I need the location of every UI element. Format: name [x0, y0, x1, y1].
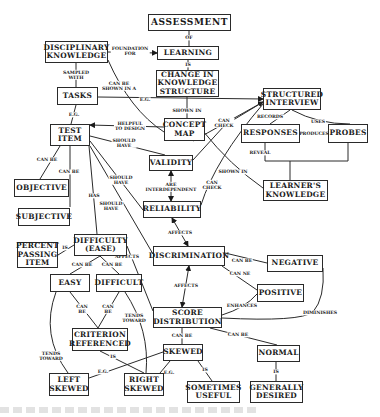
node-subjective: SUBJECTIVE — [18, 208, 70, 226]
edge-label: IS — [272, 369, 279, 374]
node-generally-desired: GENERALLY DESIRED — [250, 381, 303, 403]
edge-label: ARE INTERDEPENDENT — [145, 182, 198, 192]
node-difficult: DIFFICULT — [96, 274, 142, 292]
edge-label: TENDS TOWARD — [121, 313, 147, 323]
edge-label: CAN BE — [101, 304, 114, 314]
edge-label: HAS — [87, 193, 100, 198]
edge-discrimination-to-positive — [222, 266, 257, 290]
edge-label: AFFECTS — [173, 283, 199, 288]
edge-label: CAN BE — [231, 258, 253, 263]
node-disciplinary-knowledge: DISCIPLINARY KNOWLEDGE — [45, 41, 108, 63]
node-criterion-referenced: CRITERION REFERENCED — [72, 328, 128, 351]
edge-label: ENHANCES — [226, 303, 258, 308]
node-tasks: TASKS — [57, 87, 98, 105]
edge-label: IS — [184, 62, 191, 67]
node-probes: PROBES — [328, 124, 368, 143]
node-test-item: TEST ITEM — [50, 124, 90, 146]
edge-label: SHOULD HAVE — [99, 201, 124, 211]
edge-label: CAN BE — [36, 157, 58, 162]
node-reliability: RELIABILITY — [143, 201, 201, 218]
edge-label: CAN BE — [71, 262, 93, 267]
edge-label: REVEAL — [248, 150, 271, 155]
edge-label: CAN BE — [75, 304, 88, 314]
edge-tasks-to-structured_interview — [98, 97, 263, 99]
node-discrimination: DISCRIMINATION — [153, 246, 225, 266]
node-structured-interview: STRUCTURED INTERVIEW — [263, 88, 321, 110]
node-left-skewed: LEFT SKEWED — [49, 373, 89, 396]
node-skewed: SKEWED — [163, 344, 203, 361]
edge-label: SHOWN IN — [172, 108, 203, 113]
edge-label: SHOULD HAVE — [112, 138, 137, 148]
edge-label: CAN CHECK — [201, 180, 222, 190]
edge-label: TENDS TOWARD — [38, 351, 64, 361]
edge-label: IS — [109, 354, 116, 359]
edge-label: SAMPLED WITH — [62, 70, 90, 80]
node-difficulty-ease: DIFFICULTY (EASE) — [74, 234, 127, 256]
node-objective: OBJECTIVE — [14, 179, 69, 197]
edge-label: E.G. — [68, 112, 80, 117]
node-percent-passing-item: PERCENT PASSING ITEM — [17, 242, 58, 268]
edge-label: FOUNDATION FOR — [111, 46, 150, 56]
edge-label: CAN BE — [227, 332, 249, 337]
edge-label: E.G. — [139, 97, 151, 102]
edge-label: PRODUCES — [298, 131, 330, 136]
edge-label: E.G. — [163, 370, 175, 375]
edge-label: USES — [310, 119, 326, 124]
node-learners-knowledge: LEARNER'S KNOWLEDGE — [263, 180, 328, 201]
node-sometimes-useful: SOMETIMES USEFUL — [187, 381, 240, 403]
node-assessment: ASSESSMENT — [148, 14, 231, 31]
node-normal: NORMAL — [257, 345, 300, 362]
edge-label: CAN BE — [101, 262, 123, 267]
node-validity: VALIDITY — [149, 155, 193, 171]
node-easy: EASY — [50, 274, 90, 292]
edge-label: IS — [201, 367, 208, 372]
node-responses: RESPONSES — [241, 124, 300, 143]
edge-label: CAN BE SHOWN IN A — [101, 81, 137, 91]
node-change-in-knowledge-structure: CHANGE IN KNOWLEDGE STRUCTURE — [156, 70, 219, 97]
edge-label: CAN BE — [58, 169, 80, 174]
node-negative: NEGATIVE — [267, 255, 323, 272]
node-learning: LEARNING — [157, 46, 219, 60]
edge-label: RECORDS — [256, 114, 284, 119]
edge-label: SHOULD HAVE — [109, 175, 134, 185]
node-positive: POSITIVE — [257, 284, 304, 302]
edge-label: CAN NE — [229, 271, 252, 276]
figure-caption-strip — [0, 407, 260, 413]
edge-label: IS — [61, 245, 68, 250]
node-concept-map: CONCEPT MAP — [164, 118, 205, 141]
concept-map: OFFOUNDATION FORISSAMPLED WITHCAN BE SHO… — [0, 0, 380, 417]
edge-label: AFFECTS — [167, 230, 193, 235]
edge-label: CAN CHECK — [213, 118, 234, 128]
edge-responses-to-learners_knowledge — [265, 143, 348, 180]
edge-test_item-to-difficulty_ease — [89, 146, 97, 234]
node-score-distribution: SCORE DISTRIBUTION — [153, 307, 222, 328]
edge-label: E.G. — [97, 369, 109, 374]
edge-label: DIMINISHES — [302, 310, 338, 315]
edge-label: CAN BE — [171, 333, 193, 338]
node-right-skewed: RIGHT SKEWED — [124, 373, 164, 396]
edge-label: HELPFUL TO DESIGN — [114, 121, 146, 131]
edge-label: SHOWN IN — [218, 169, 249, 174]
edge-label: OF — [184, 35, 193, 40]
